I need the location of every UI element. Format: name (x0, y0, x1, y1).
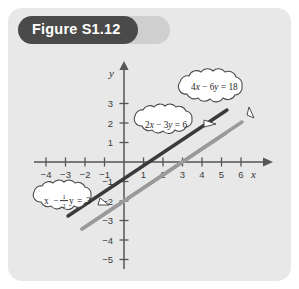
x-tick-label-5: 5 (219, 169, 224, 180)
y-tick-label-3: 3 (108, 98, 113, 109)
x-tick-label-3: 3 (180, 169, 185, 180)
callout-4x-6y: 4x − 6y = 18 (178, 69, 254, 118)
x-tick-label--2: −2 (80, 169, 91, 180)
callout-3-equals: = (77, 196, 85, 206)
y-tick-labels: 3 2 1 −1 −2 −3 −4 −5 (102, 98, 113, 265)
x-tick-label--3: −3 (60, 169, 71, 180)
x-tick-label-6: 6 (238, 169, 243, 180)
callout-tail-1 (247, 107, 254, 118)
y-tick-label-2: 2 (108, 118, 113, 129)
callout-3-rhs: 3 (86, 196, 91, 206)
x-tick-label--4: −4 (41, 169, 52, 180)
x-tick-label-4: 4 (199, 169, 204, 180)
figure-banner: Figure S1.12 (18, 16, 170, 44)
figure-title: Figure S1.12 (32, 21, 121, 37)
coordinate-plot: −4 −3 −2 −1 1 2 3 4 5 6 (8, 44, 291, 281)
callout-2-text: 2x − 3y = 6 (145, 120, 187, 130)
y-axis-arrowhead (119, 61, 128, 70)
callout-3-operator: − (51, 196, 61, 206)
y-tick-label-1: 1 (108, 137, 113, 148)
figure-card: Figure S1.12 (8, 8, 291, 281)
callout-1-text: 4x − 6y = 18 (191, 82, 238, 92)
fraction-numerator: 1 (62, 193, 65, 200)
fraction-denominator: 2 (62, 202, 65, 209)
y-axis-label: y (108, 67, 114, 79)
y-tick-label--3: −3 (102, 215, 113, 226)
callout-3-var-y: y (69, 196, 74, 206)
x-tick-labels: −4 −3 −2 −1 1 2 3 4 5 6 (41, 169, 244, 180)
callout-2x-3y: 2x − 3y = 6 (134, 104, 216, 133)
y-tick-label--4: −4 (102, 235, 113, 246)
plot-svg: −4 −3 −2 −1 1 2 3 4 5 6 (8, 44, 291, 281)
x-axis-label: x (250, 168, 256, 180)
x-tick-label-1: 1 (141, 169, 146, 180)
callout-3-var-x: x (44, 196, 49, 206)
y-tick-label--5: −5 (102, 254, 113, 265)
x-axis-arrowhead (263, 157, 273, 166)
